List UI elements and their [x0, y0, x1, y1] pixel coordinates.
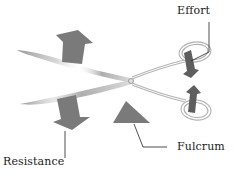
triangle-icon — [113, 101, 150, 123]
effort-arrow-up-icon — [186, 85, 201, 113]
fulcrum-label: Fulcrum — [177, 140, 225, 153]
fulcrum-leader-line — [134, 124, 167, 147]
arrow-down-icon — [53, 95, 90, 130]
scissors-lever-diagram: Effort Resistance Fulcrum — [0, 0, 244, 176]
handle-shanks — [132, 60, 186, 102]
effort-arrow-down-icon — [183, 50, 199, 78]
effort-label: Effort — [177, 4, 210, 17]
arrow-up-icon — [56, 30, 93, 64]
resistance-label: Resistance — [3, 155, 64, 168]
